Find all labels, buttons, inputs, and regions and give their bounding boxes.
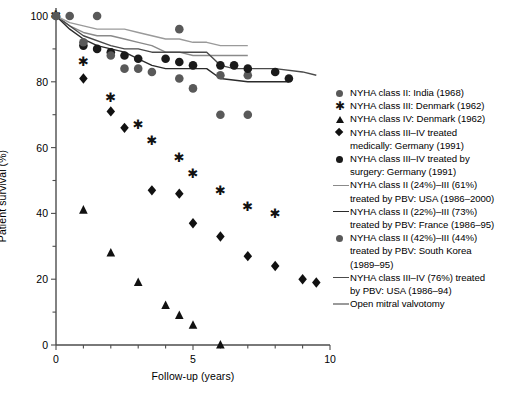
series-marker-1: ✱ (242, 199, 253, 214)
series-marker-3 (107, 106, 116, 116)
series-marker-4 (271, 68, 280, 77)
legend-item-label: NYHA class IV: Denmark (1962) (350, 112, 485, 125)
series-marker-3 (189, 218, 198, 228)
series-marker-4 (175, 58, 184, 67)
y-tick-label: 20 (36, 273, 48, 285)
series-marker-3 (175, 188, 184, 198)
series-marker-1: ✱ (78, 54, 89, 69)
legend-marker-glyph (336, 235, 343, 242)
legend-item[interactable]: ✱NYHA class III: Denmark (1962) (333, 99, 514, 112)
circle-marker-gray-icon (333, 86, 350, 99)
legend-marker-glyph (333, 303, 349, 304)
legend-item[interactable]: NYHA class IV: Denmark (1962) (333, 112, 514, 125)
y-tick-label: 0 (42, 339, 48, 351)
series-marker-7 (216, 110, 225, 119)
x-axis-title: Follow-up (years) (152, 370, 235, 382)
series-marker-7 (79, 38, 88, 47)
series-marker-0 (65, 12, 74, 21)
series-marker-7 (189, 84, 198, 93)
series-marker-3 (298, 274, 307, 284)
series-marker-3 (148, 185, 157, 195)
series-marker-4 (134, 54, 143, 63)
line-light-gray-icon (333, 178, 350, 191)
legend-marker-glyph (333, 211, 349, 212)
x-tick-label: 10 (324, 353, 336, 365)
star-marker-black-icon: ✱ (333, 99, 350, 112)
series-marker-7 (175, 74, 184, 83)
series-marker-7 (52, 12, 61, 21)
y-tick-label: 80 (36, 76, 48, 88)
legend-item[interactable]: NYHA class III–IV treated by surgery: Ge… (333, 152, 514, 178)
series-marker-0 (216, 71, 225, 80)
series-marker-2 (79, 205, 88, 214)
series-marker-4 (285, 74, 294, 83)
legend-item[interactable]: Open mitral valvotomy (333, 297, 514, 310)
legend-item-label: NYHA class III: Denmark (1962) (350, 99, 484, 112)
x-tick-label: 5 (190, 353, 196, 365)
series-marker-2 (189, 320, 198, 329)
series-marker-7 (148, 68, 157, 77)
series-marker-3 (120, 123, 129, 133)
legend-item-label: NYHA class III–IV treated by surgery: Ge… (350, 152, 470, 178)
y-tick-label: 100 (30, 10, 48, 22)
series-marker-1: ✱ (174, 150, 185, 165)
circle-marker-gray-icon (333, 231, 350, 244)
triangle-marker-black-icon (333, 112, 350, 125)
legend-item[interactable]: NYHA class III–IV treated medically: Ger… (333, 126, 514, 152)
series-marker-4 (189, 61, 198, 70)
legend-marker-glyph (336, 90, 343, 97)
legend-item[interactable]: NYHA class II (42%)–III (44%) treated by… (333, 231, 514, 271)
series-marker-4 (244, 64, 253, 73)
legend-item-label: NYHA class II (42%)–III (44%) treated by… (350, 231, 477, 271)
legend-item[interactable]: NYHA class II (24%)–III (61%) treated by… (333, 178, 514, 204)
series-marker-1: ✱ (215, 183, 226, 198)
series-marker-1: ✱ (133, 117, 144, 132)
legend-item-label: NYHA class III–IV treated medically: Ger… (350, 126, 464, 152)
series-marker-4 (120, 51, 129, 60)
series-marker-2 (175, 310, 184, 319)
series-marker-3 (271, 261, 280, 271)
legend-item[interactable]: NYHA class III–IV (76%) treated by PBV: … (333, 271, 514, 297)
diamond-marker-black-icon (333, 126, 350, 139)
chart-legend: NYHA class II: India (1968)✱NYHA class I… (333, 86, 514, 310)
series-marker-0 (175, 25, 184, 34)
line-dark-icon (333, 205, 350, 218)
plot-region: ✱✱✱✱✱✱✱✱✱✱ Patient survival (%) Follow-u… (0, 0, 345, 394)
legend-item[interactable]: NYHA class II: India (1968) (333, 86, 514, 99)
y-axis-title: Patient survival (%) (0, 150, 8, 242)
legend-item-label: NYHA class III–IV (76%) treated by PBV: … (350, 271, 485, 297)
y-tick-label: 40 (36, 207, 48, 219)
series-marker-2 (134, 277, 143, 286)
legend-item-label: NYHA class II (22%)–III (73%) treated by… (350, 205, 494, 231)
series-marker-0 (93, 12, 102, 21)
legend-item-label: NYHA class II (24%)–III (61%) treated by… (350, 178, 494, 204)
series-marker-4 (216, 61, 225, 70)
legend-marker-glyph (336, 116, 344, 123)
series-marker-7 (244, 110, 253, 119)
series-marker-7 (134, 64, 143, 73)
legend-marker-glyph (333, 185, 349, 186)
legend-marker-glyph (333, 277, 349, 278)
plot-canvas: ✱✱✱✱✱✱✱✱✱✱ (0, 0, 345, 394)
line-medium-dark-icon (333, 271, 350, 284)
series-marker-3 (79, 73, 88, 83)
series-marker-7 (120, 64, 129, 73)
series-line-6 (56, 16, 289, 82)
series-marker-1: ✱ (270, 206, 281, 221)
series-marker-1: ✱ (188, 166, 199, 181)
series-marker-1: ✱ (146, 133, 157, 148)
legend-item[interactable]: NYHA class II (22%)–III (73%) treated by… (333, 205, 514, 231)
series-marker-3 (216, 231, 225, 241)
series-marker-3 (244, 251, 253, 261)
circle-marker-black-icon (333, 152, 350, 165)
series-marker-3 (312, 277, 321, 287)
series-marker-4 (93, 45, 102, 54)
series-marker-7 (107, 51, 116, 60)
series-marker-4 (161, 54, 170, 63)
legend-item-label: Open mitral valvotomy (350, 297, 444, 310)
series-marker-1: ✱ (105, 90, 116, 105)
chart-figure: ✱✱✱✱✱✱✱✱✱✱ Patient survival (%) Follow-u… (0, 0, 514, 394)
y-tick-label: 60 (36, 142, 48, 154)
line-pale-gray-icon (333, 297, 350, 310)
legend-marker-glyph (336, 156, 343, 163)
